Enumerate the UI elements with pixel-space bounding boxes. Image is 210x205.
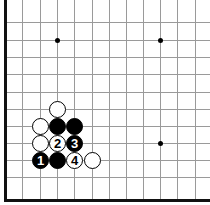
black-stone-1: 1 [32, 152, 49, 169]
grid-line-vertical [195, 0, 196, 200]
black-stone-3: 3 [66, 135, 83, 152]
board-left-edge [4, 0, 7, 202]
grid-line-vertical [126, 0, 127, 200]
grid-line-horizontal [5, 92, 210, 93]
grid-line-vertical [143, 0, 144, 200]
grid-line-vertical [109, 0, 110, 200]
grid-line-vertical [40, 0, 41, 200]
grid-line-vertical [160, 0, 161, 200]
board-bottom-edge [4, 199, 210, 202]
stone-move-number: 2 [54, 137, 61, 150]
grid-line-horizontal [5, 22, 210, 23]
stone-move-number: 3 [71, 137, 78, 150]
white-stone-2: 2 [49, 135, 66, 152]
white-stone [32, 135, 49, 152]
stone-move-number: 4 [71, 154, 78, 167]
grid-line-vertical [177, 0, 178, 200]
white-stone [32, 118, 49, 135]
grid-line-horizontal [5, 74, 210, 75]
black-stone [49, 152, 66, 169]
grid-line-horizontal [5, 57, 210, 58]
grid-line-horizontal [5, 40, 210, 41]
grid-line-vertical [22, 0, 23, 200]
stone-move-number: 1 [37, 154, 44, 167]
star-point-icon [158, 141, 163, 146]
star-point-icon [55, 38, 60, 43]
star-point-icon [158, 38, 163, 43]
black-stone [49, 118, 66, 135]
grid-line-vertical [57, 0, 58, 200]
go-board: 2314 [0, 0, 210, 205]
white-stone-4: 4 [66, 152, 83, 169]
black-stone [66, 118, 83, 135]
white-stone [49, 101, 66, 118]
white-stone [84, 152, 101, 169]
grid-line-horizontal [5, 109, 210, 110]
grid-line-vertical [74, 0, 75, 200]
grid-line-vertical [92, 0, 93, 200]
grid-line-horizontal [5, 177, 210, 178]
